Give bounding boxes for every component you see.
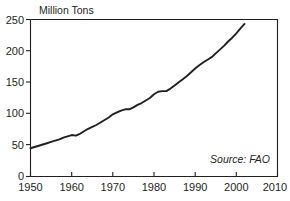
y-axis-ticks xyxy=(26,20,31,177)
x-tick-label-1950: 1950 xyxy=(18,181,42,193)
x-axis-tick-labels: 1950 1960 1970 1980 1990 2000 2010 xyxy=(18,181,287,193)
data-series-line xyxy=(31,24,245,148)
source-note: Source: FAO xyxy=(210,153,270,165)
chart-container: Million Tons 250 200 150 100 50 0 xyxy=(0,0,290,201)
y-tick-label-100: 100 xyxy=(6,107,24,119)
y-tick-label-150: 150 xyxy=(6,76,24,88)
x-tick-label-1980: 1980 xyxy=(142,181,166,193)
x-tick-label-2010: 2010 xyxy=(263,181,287,193)
y-axis-title: Million Tons xyxy=(39,4,94,16)
x-axis-ticks xyxy=(31,172,278,177)
y-axis-tick-labels: 250 200 150 100 50 0 xyxy=(6,14,24,183)
y-tick-label-50: 50 xyxy=(12,139,24,151)
x-tick-label-1960: 1960 xyxy=(59,181,83,193)
line-chart: Million Tons 250 200 150 100 50 0 xyxy=(0,0,290,201)
y-tick-label-200: 200 xyxy=(6,45,24,57)
x-tick-label-2000: 2000 xyxy=(224,181,248,193)
y-tick-label-250: 250 xyxy=(6,14,24,26)
x-tick-label-1990: 1990 xyxy=(183,181,207,193)
x-tick-label-1970: 1970 xyxy=(101,181,125,193)
